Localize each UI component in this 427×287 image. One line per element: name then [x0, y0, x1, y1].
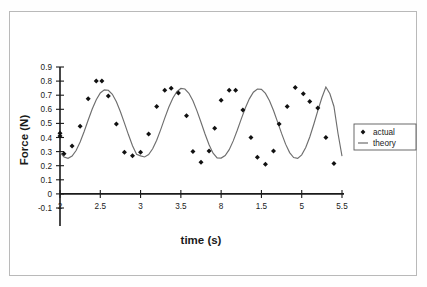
y-tick-label: 0 [47, 190, 52, 199]
data-point-actual [263, 162, 268, 167]
y-tick-label: 0.9 [41, 63, 53, 72]
y-tick-label: 0.8 [41, 77, 53, 86]
y-tick-label: 0.4 [41, 134, 53, 143]
x-tick-label: 8 [219, 202, 224, 211]
data-point-actual [130, 153, 135, 158]
data-point-actual [285, 104, 290, 109]
data-point-actual [146, 131, 151, 136]
data-point-actual [99, 79, 104, 84]
data-point-actual [199, 160, 204, 165]
data-point-actual [106, 93, 111, 98]
x-tick-label: 2.5 [95, 202, 107, 211]
data-point-actual [227, 88, 232, 93]
y-tick-label: 0.5 [41, 119, 53, 128]
y-tick-label: 0.7 [41, 91, 53, 100]
y-tick-label: 0.2 [41, 162, 53, 171]
x-tick-label: 3 [138, 202, 143, 211]
y-tick-label: 0.6 [41, 105, 53, 114]
x-axis-tick-labels: 22.533.581.555.5 [58, 202, 348, 211]
legend-label: theory [373, 139, 397, 148]
data-point-actual [212, 126, 217, 131]
data-point-actual [138, 150, 143, 155]
data-point-actual [271, 148, 276, 153]
chart-canvas: -0.100.10.20.30.40.50.60.70.80.9 22.533.… [10, 12, 418, 277]
x-axis-title: time (s) [181, 234, 222, 246]
data-point-actual [70, 143, 75, 148]
y-tick-label: -0.1 [38, 204, 53, 213]
data-point-actual [331, 161, 336, 166]
data-point-actual [190, 149, 195, 154]
data-point-actual [219, 98, 224, 103]
data-point-actual [307, 99, 312, 104]
y-tick-label: 0.1 [41, 176, 53, 185]
data-point-actual [162, 88, 167, 93]
chart-legend: actualtheory [354, 124, 416, 150]
series-actual-markers [58, 79, 337, 167]
data-point-actual [233, 88, 238, 93]
force-vs-time-chart: -0.100.10.20.30.40.50.60.70.80.9 22.533.… [10, 12, 418, 277]
y-axis-tick-labels: -0.100.10.20.30.40.50.60.70.80.9 [38, 63, 53, 213]
data-point-actual [255, 155, 260, 160]
data-point-actual [184, 113, 189, 118]
series-theory-line [60, 87, 342, 158]
screenshot-page: -0.100.10.20.30.40.50.60.70.80.9 22.533.… [0, 0, 427, 287]
data-point-actual [78, 124, 83, 129]
data-point-actual [114, 122, 119, 127]
y-tick-label: 0.3 [41, 148, 53, 157]
data-point-actual [169, 86, 174, 91]
data-point-actual [122, 150, 127, 155]
theory-curve [60, 87, 342, 158]
data-point-actual [154, 104, 159, 109]
x-tick-label: 1.5 [256, 202, 268, 211]
data-point-actual [86, 96, 91, 101]
x-tick-label: 5 [299, 202, 304, 211]
figure-frame: -0.100.10.20.30.40.50.60.70.80.9 22.533.… [9, 11, 417, 276]
y-axis-title: Force (N) [18, 115, 30, 166]
data-point-actual [301, 91, 306, 96]
data-point-actual [248, 135, 253, 140]
data-point-actual [323, 135, 328, 140]
legend-label: actual [373, 128, 395, 137]
x-tick-label: 5.5 [336, 202, 348, 211]
data-point-actual [94, 79, 99, 84]
data-point-actual [293, 85, 298, 90]
x-tick-label: 3.5 [175, 202, 187, 211]
x-tick-label: 2 [58, 202, 63, 211]
